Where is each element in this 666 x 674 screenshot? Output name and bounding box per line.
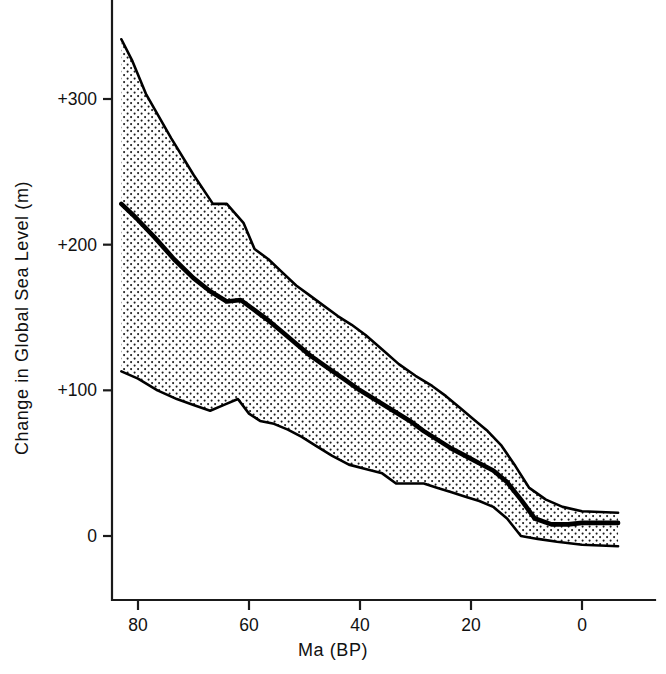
- y-tick-label: +200: [58, 235, 98, 255]
- x-tick-label: 80: [128, 615, 148, 635]
- y-axis-tick-labels: +300+200+1000: [58, 89, 98, 546]
- x-axis-tick-labels: 806040200: [128, 615, 587, 635]
- sea-level-chart-figure: +300+200+1000 806040200 Ma (BP) Change i…: [0, 0, 666, 674]
- x-tick-label: 20: [461, 615, 481, 635]
- y-tick-label: 0: [87, 526, 97, 546]
- y-tick-label: +300: [58, 89, 98, 109]
- x-axis-title: Ma (BP): [298, 640, 368, 660]
- y-axis-ticks: [103, 99, 112, 536]
- x-tick-label: 40: [350, 615, 370, 635]
- chart-canvas: +300+200+1000 806040200 Ma (BP) Change i…: [0, 0, 666, 674]
- x-tick-label: 0: [577, 615, 587, 635]
- x-axis-ticks: [138, 600, 582, 610]
- y-tick-label: +100: [58, 380, 98, 400]
- y-axis-title: Change in Global Sea Level (m): [12, 181, 32, 455]
- x-tick-label: 60: [239, 615, 259, 635]
